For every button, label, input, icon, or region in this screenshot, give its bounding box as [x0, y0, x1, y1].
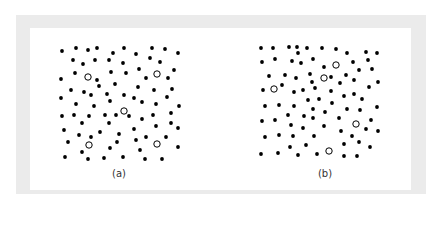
filled-dot: [86, 157, 90, 161]
panel-b-dots: [259, 45, 380, 158]
filled-dot: [71, 58, 75, 62]
filled-dot: [312, 134, 316, 138]
filled-dot: [165, 95, 169, 99]
filled-dot: [144, 76, 148, 80]
hollow-dot: [86, 142, 92, 148]
filled-dot: [148, 56, 152, 60]
panel-b-caption: (b): [310, 168, 340, 179]
filled-dot: [310, 80, 314, 84]
filled-dot: [304, 143, 308, 147]
filled-dot: [313, 86, 317, 90]
filled-dot: [59, 96, 63, 100]
filled-dot: [311, 57, 315, 61]
filled-dot: [289, 123, 293, 127]
filled-dot: [345, 107, 349, 111]
filled-dot: [360, 97, 364, 101]
hollow-dot: [85, 74, 91, 80]
filled-dot: [86, 48, 90, 52]
filled-dot: [93, 58, 97, 62]
filled-dot: [280, 83, 284, 87]
filled-dot: [113, 82, 117, 86]
filled-dot: [301, 88, 305, 92]
filled-dot: [329, 75, 333, 79]
filled-dot: [140, 117, 144, 121]
filled-dot: [286, 113, 290, 117]
filled-dot: [132, 127, 136, 131]
filled-dot: [111, 51, 115, 55]
filled-dot: [273, 57, 277, 61]
filled-dot: [77, 133, 81, 137]
filled-dot: [69, 88, 73, 92]
filled-dot: [299, 61, 303, 65]
filled-dot: [273, 118, 277, 122]
filled-dot: [95, 46, 99, 50]
filled-dot: [357, 140, 361, 144]
filled-dot: [338, 81, 342, 85]
filled-dot: [287, 45, 291, 49]
filled-dot: [74, 102, 78, 106]
filled-dot: [60, 114, 64, 118]
filled-dot: [351, 60, 355, 64]
filled-dot: [80, 121, 84, 125]
filled-dot: [105, 92, 109, 96]
filled-dot: [368, 145, 372, 149]
filled-dot: [143, 157, 147, 161]
hollow-dot: [154, 141, 160, 147]
filled-dot: [364, 127, 368, 131]
filled-dot: [158, 60, 162, 64]
filled-dot: [315, 152, 319, 156]
filled-dot: [337, 116, 341, 120]
filled-dot: [108, 99, 112, 103]
filled-dot: [176, 51, 180, 55]
filled-dot: [154, 124, 158, 128]
filled-dot: [260, 119, 264, 123]
filled-dot: [271, 46, 275, 50]
filled-dot: [259, 152, 263, 156]
filled-dot: [107, 58, 111, 62]
filled-dot: [115, 140, 119, 144]
filled-dot: [74, 46, 78, 50]
filled-dot: [152, 88, 156, 92]
filled-dot: [164, 135, 168, 139]
hollow-dot: [326, 148, 332, 154]
filled-dot: [140, 100, 144, 104]
filled-dot: [344, 73, 348, 77]
filled-dot: [322, 65, 326, 69]
filled-dot: [364, 50, 368, 54]
filled-dot: [60, 49, 64, 53]
filled-dot: [66, 140, 70, 144]
filled-dot: [109, 70, 113, 74]
filled-dot: [334, 47, 338, 51]
hollow-dot: [353, 121, 359, 127]
filled-dot: [103, 113, 107, 117]
filled-dot: [150, 46, 154, 50]
filled-dot: [95, 78, 99, 82]
filled-dot: [350, 134, 354, 138]
filled-dot: [308, 72, 312, 76]
filled-dot: [311, 107, 315, 111]
filled-dot: [267, 74, 271, 78]
filled-dot: [305, 46, 309, 50]
filled-dot: [263, 135, 267, 139]
filled-dot: [339, 129, 343, 133]
filled-dot: [369, 118, 373, 122]
filled-dot: [376, 129, 380, 133]
filled-dot: [357, 68, 361, 72]
filled-dot: [320, 46, 324, 50]
filled-dot: [292, 90, 296, 94]
filled-dot: [87, 114, 91, 118]
filled-dot: [121, 61, 125, 65]
filled-dot: [330, 101, 334, 105]
filled-dot: [176, 145, 180, 149]
filled-dot: [291, 134, 295, 138]
filled-dot: [352, 78, 356, 82]
hollow-dot: [321, 75, 327, 81]
filled-dot: [169, 111, 173, 115]
filled-dot: [166, 76, 170, 80]
filled-dot: [163, 47, 167, 51]
filled-dot: [366, 58, 370, 62]
filled-dot: [108, 146, 112, 150]
filled-dot: [132, 96, 136, 100]
filled-dot: [73, 71, 77, 75]
filled-dot: [277, 133, 281, 137]
